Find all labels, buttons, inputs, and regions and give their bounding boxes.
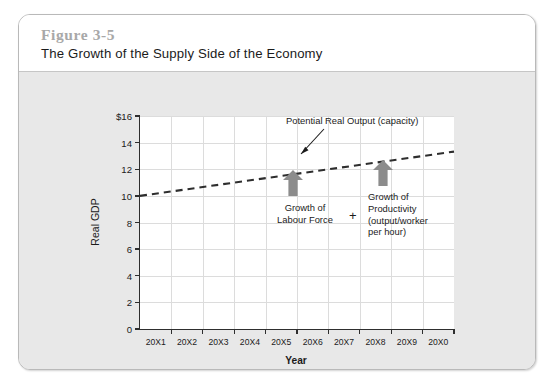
x-axis-tick-label: 20X4 — [240, 337, 260, 347]
x-axis-tick-label: 20X3 — [208, 337, 228, 347]
y-axis-tick-mark — [135, 142, 140, 143]
x-axis-tick-mark — [453, 329, 454, 334]
productivity-label-line3: (output/worker — [368, 215, 478, 227]
labour-force-label-line1: Growth of — [260, 202, 350, 214]
y-axis-tick-label: $16 — [116, 111, 132, 122]
x-axis-tick-label: 20X6 — [303, 337, 323, 347]
x-axis-tick-mark — [234, 329, 235, 334]
labour-force-up-arrow-icon — [283, 170, 303, 196]
x-axis-title: Year — [285, 355, 307, 366]
capacity-callout-label: Potential Real Output (capacity) — [286, 115, 418, 126]
x-axis-tick-mark — [296, 329, 297, 334]
gridline-vertical — [171, 116, 172, 329]
figure-title: The Growth of the Supply Side of the Eco… — [41, 46, 323, 61]
labour-force-label: Growth of Labour Force — [260, 202, 350, 226]
y-axis-tick-mark — [135, 302, 140, 303]
y-axis-tick-label: 6 — [127, 244, 132, 255]
y-axis-tick-mark — [135, 222, 140, 223]
y-axis-tick-label: 4 — [127, 270, 132, 281]
x-axis-tick-mark — [422, 329, 423, 334]
x-axis-tick-label: 20X7 — [334, 337, 354, 347]
x-axis-tick-mark — [391, 329, 392, 334]
y-axis-tick-label: 8 — [127, 217, 132, 228]
productivity-label-line4: per hour) — [368, 226, 478, 238]
y-axis-tick-label: 14 — [121, 137, 132, 148]
figure-number: Figure 3-5 — [41, 26, 115, 44]
y-axis-tick-mark — [135, 248, 140, 249]
x-axis-tick-label: 20X1 — [146, 337, 166, 347]
x-axis-tick-mark — [171, 329, 172, 334]
x-axis-tick-mark — [328, 329, 329, 334]
y-axis-tick-mark — [135, 115, 140, 116]
y-axis-tick-label: 10 — [121, 190, 132, 201]
y-axis-tick-mark — [135, 275, 140, 276]
x-axis-tick-mark — [265, 329, 266, 334]
y-axis-tick-label: 0 — [127, 324, 132, 335]
gridline-vertical — [234, 116, 235, 329]
plot-area: $1614121086420 20X120X220X320X420X520X62… — [139, 116, 454, 330]
gridline-vertical — [203, 116, 204, 329]
plus-operator: + — [349, 208, 357, 223]
y-axis-tick-mark — [135, 195, 140, 196]
x-axis-tick-label: 20X2 — [177, 337, 197, 347]
x-axis-tick-label: 20X5 — [271, 337, 291, 347]
y-axis-title: Real GDP — [89, 198, 101, 245]
x-axis-tick-label: 20X9 — [397, 337, 417, 347]
labour-force-label-line2: Labour Force — [260, 214, 350, 226]
y-axis-tick-mark — [135, 328, 140, 329]
figure-header: Figure 3-5 The Growth of the Supply Side… — [19, 15, 535, 71]
chart-panel: Real GDP Year $1614121086420 20X120X220X… — [19, 71, 536, 370]
gridline-vertical — [360, 116, 361, 329]
y-axis-tick-label: 12 — [121, 164, 132, 175]
productivity-label-line2: Productivity — [368, 203, 478, 215]
y-axis-tick-label: 2 — [127, 297, 132, 308]
productivity-label: Growth of Productivity (output/worker pe… — [368, 191, 478, 238]
productivity-label-line1: Growth of — [368, 191, 478, 203]
x-axis-tick-mark — [202, 329, 203, 334]
productivity-up-arrow-icon — [373, 160, 393, 186]
figure-card: Figure 3-5 The Growth of the Supply Side… — [18, 14, 536, 370]
y-axis-tick-mark — [135, 169, 140, 170]
x-axis-tick-mark — [359, 329, 360, 334]
x-axis-tick-label: 20X0 — [428, 337, 448, 347]
x-axis-tick-label: 20X8 — [365, 337, 385, 347]
